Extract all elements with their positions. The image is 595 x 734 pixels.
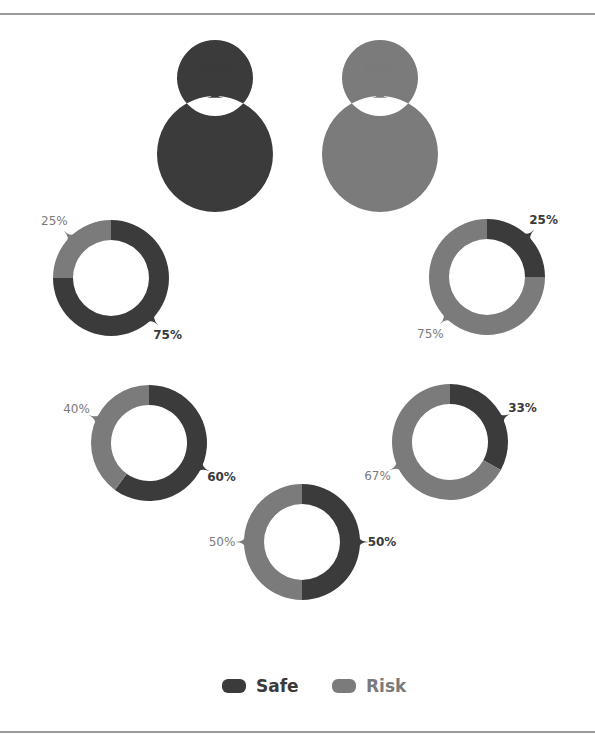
donut-segment-risk[interactable]	[244, 484, 302, 600]
svg-text:25%: 25%	[529, 213, 558, 227]
legend-swatch-risk-icon	[332, 679, 356, 693]
donut-d6: 33%67%	[364, 384, 537, 500]
legend-swatch-safe-icon	[222, 679, 246, 693]
donut-d2: 100%	[322, 40, 438, 212]
donut-d1: 100%	[157, 40, 273, 212]
svg-text:75%: 75%	[417, 327, 444, 341]
svg-text:100%: 100%	[363, 61, 397, 75]
legend-label-risk: Risk	[366, 676, 406, 696]
donut-d4: 25%75%	[417, 213, 558, 340]
legend-item-safe[interactable]: Safe	[222, 676, 299, 696]
donut-segment-safe[interactable]	[450, 384, 508, 470]
svg-text:67%: 67%	[364, 469, 391, 483]
donut-d5: 60%40%	[63, 385, 236, 501]
svg-text:60%: 60%	[207, 470, 236, 484]
legend-item-risk[interactable]: Risk	[332, 676, 406, 696]
svg-text:75%: 75%	[153, 328, 182, 342]
donut-chart-canvas: 100%100%75%25%25%75%60%40%33%67%50%50%	[0, 0, 595, 734]
donut-segment-safe[interactable]	[487, 219, 545, 277]
donut-d3: 75%25%	[41, 214, 182, 341]
svg-text:50%: 50%	[209, 535, 236, 549]
svg-text:40%: 40%	[63, 402, 90, 416]
donut-segment-risk[interactable]	[53, 220, 111, 278]
legend-label-safe: Safe	[256, 676, 299, 696]
donut-d7: 50%50%	[209, 484, 397, 600]
svg-text:100%: 100%	[196, 61, 233, 75]
donut-segment-risk[interactable]	[91, 385, 149, 490]
donut-segment-safe[interactable]	[302, 484, 360, 600]
legend: Safe Risk	[0, 676, 595, 706]
svg-text:50%: 50%	[368, 535, 397, 549]
svg-text:25%: 25%	[41, 214, 68, 228]
svg-text:33%: 33%	[508, 401, 537, 415]
